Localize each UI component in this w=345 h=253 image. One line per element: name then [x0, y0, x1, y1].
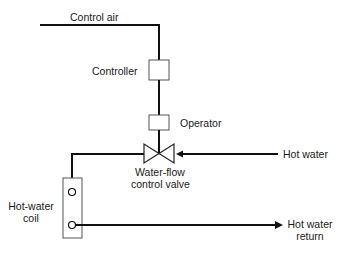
coil-label-line1: Hot-water [6, 200, 56, 212]
coil-label-line2: coil [6, 212, 56, 224]
return-label-line2: return [283, 230, 337, 242]
coil-inlet-circle [69, 189, 76, 196]
controller-box [149, 60, 169, 80]
operator-label: Operator [180, 117, 221, 129]
hot-water-label: Hot water [283, 148, 328, 160]
return-arrowhead-icon [275, 221, 283, 229]
coil-label: Hot-water coil [6, 200, 56, 224]
return-label-line1: Hot water [283, 218, 337, 230]
valve-label-line1: Water-flow [131, 166, 189, 178]
control-air-label: Control air [70, 11, 118, 23]
valve-label-line2: control valve [131, 178, 189, 190]
control-air-line [40, 25, 159, 60]
operator-box [149, 115, 169, 130]
valve-left-triangle [144, 144, 159, 163]
valve-label: Water-flow control valve [131, 166, 189, 190]
valve-right-triangle [159, 144, 174, 163]
coil-outlet-circle [69, 222, 76, 229]
return-label: Hot water return [283, 218, 337, 242]
supply-arrowhead-icon [176, 151, 183, 158]
controller-label: Controller [92, 65, 138, 77]
